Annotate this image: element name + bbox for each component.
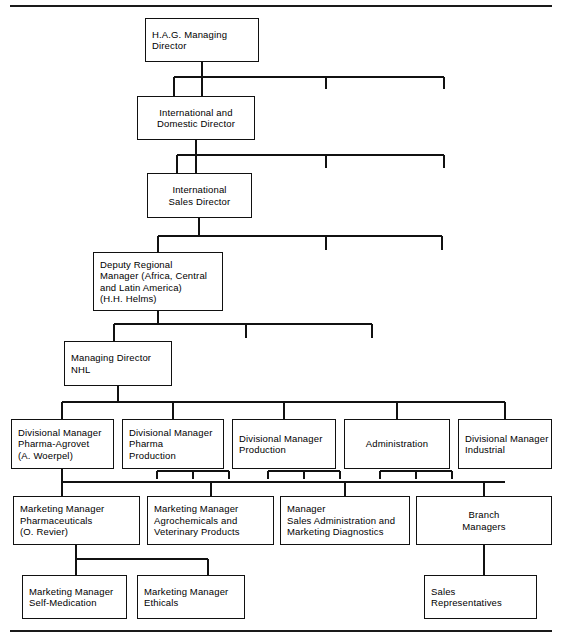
org-node-label-line: Pharma (129, 438, 163, 450)
connector-lines (0, 0, 562, 642)
org-node-label-line: (A. Woerpel) (18, 450, 73, 462)
org-node-label-line: Manager (287, 503, 326, 515)
wire-stub-bracket-administration (380, 471, 452, 479)
org-node-label-line: Self-Medication (29, 597, 97, 609)
org-node-label-line: (O. Revier) (20, 526, 68, 538)
org-node-label-line: H.A.G. Managing (152, 29, 227, 41)
org-node-label-line: Marketing Manager (29, 586, 113, 598)
wire-stub-bracket-production (268, 471, 340, 479)
org-chart-page: H.A.G. ManagingDirectorInternational and… (0, 0, 562, 642)
org-node-label-line: International and (159, 107, 232, 119)
org-node-label-line: (H.H. Helms) (100, 293, 157, 305)
org-node-label-line: Manager (Africa, Central (100, 270, 207, 282)
org-node-label-line: Divisional Manager (18, 427, 102, 439)
bottom-horizontal-rule (10, 630, 552, 632)
org-node-label-line: Sales Administration and (287, 515, 395, 527)
org-node-managing-director-nhl[interactable]: Managing DirectorNHL (64, 341, 172, 386)
org-node-label-line: Production (129, 450, 176, 462)
org-node-label-line: Production (239, 444, 286, 456)
org-node-label-line: Industrial (465, 444, 505, 456)
org-node-label-line: International (172, 184, 226, 196)
org-node-deputy-regional-manager[interactable]: Deputy RegionalManager (Africa, Centrala… (93, 252, 223, 311)
org-node-divisional-manager-pharma-production[interactable]: Divisional ManagerPharmaProduction (122, 419, 224, 469)
org-node-label-line: Deputy Regional (100, 259, 173, 271)
org-node-marketing-manager-self-medication[interactable]: Marketing ManagerSelf-Medication (22, 575, 127, 619)
org-node-marketing-manager-ethicals[interactable]: Marketing ManagerEthicals (137, 575, 245, 619)
org-node-divisional-manager-pharma-agrovet[interactable]: Divisional ManagerPharma-Agrovet(A. Woer… (11, 419, 114, 469)
org-node-label-line: Domestic Director (157, 118, 235, 130)
org-node-label-line: Veterinary Products (154, 526, 240, 538)
org-node-label-line: Representatives (431, 597, 502, 609)
org-node-label-line: Agrochemicals and (154, 515, 237, 527)
org-node-label-line: Marketing Diagnostics (287, 526, 384, 538)
org-node-branch-managers[interactable]: BranchManagers (416, 496, 552, 545)
org-node-marketing-manager-agrochemicals[interactable]: Marketing ManagerAgrochemicals andVeteri… (147, 496, 274, 545)
org-node-label-line: Pharma-Agrovet (18, 438, 89, 450)
org-node-label-line: Divisional Manager (239, 433, 323, 445)
org-node-manager-sales-administration[interactable]: ManagerSales Administration andMarketing… (280, 496, 410, 545)
org-node-sales-representatives[interactable]: SalesRepresentatives (424, 575, 537, 619)
org-node-label-line: Divisional Manager (129, 427, 213, 439)
org-node-label-line: NHL (71, 364, 90, 376)
org-node-divisional-manager-production[interactable]: Divisional ManagerProduction (232, 419, 336, 469)
org-node-label-line: Managing Director (71, 352, 151, 364)
org-node-label-line: Sales Director (169, 196, 231, 208)
org-node-administration[interactable]: Administration (344, 419, 450, 469)
org-node-label-line: Marketing Manager (144, 586, 228, 598)
wire-stub-bracket-pharma-production (157, 471, 229, 479)
org-node-label-line: Marketing Manager (20, 503, 104, 515)
top-horizontal-rule (10, 5, 552, 7)
org-node-label-line: Sales (431, 586, 456, 598)
org-node-label-line: Marketing Manager (154, 503, 238, 515)
org-node-label-line: and Latin America) (100, 282, 182, 294)
org-node-label-line: Branch (468, 509, 499, 521)
org-node-label-line: Director (152, 40, 186, 52)
org-node-label-line: Managers (462, 521, 505, 533)
org-node-international-sales-director[interactable]: InternationalSales Director (147, 173, 252, 218)
org-node-hag-managing-director[interactable]: H.A.G. ManagingDirector (145, 18, 259, 62)
org-node-label-line: Administration (366, 438, 428, 450)
org-node-label-line: Divisional Manager (465, 433, 549, 445)
org-node-marketing-manager-pharmaceuticals[interactable]: Marketing ManagerPharmaceuticals(O. Revi… (13, 496, 140, 545)
org-node-label-line: Pharmaceuticals (20, 515, 92, 527)
org-node-divisional-manager-industrial[interactable]: Divisional ManagerIndustrial (458, 419, 552, 469)
org-node-international-and-domestic-director[interactable]: International andDomestic Director (137, 96, 255, 140)
org-node-label-line: Ethicals (144, 597, 178, 609)
